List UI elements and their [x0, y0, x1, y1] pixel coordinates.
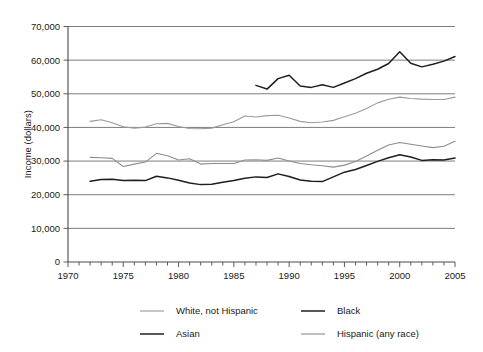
y-tick-label: 20,000	[31, 189, 60, 200]
legend-label-asian: Asian	[176, 328, 200, 339]
series-line-white-not-hispanic	[90, 97, 455, 129]
y-tick-label: 70,000	[31, 21, 60, 32]
y-tick-label: 10,000	[31, 223, 60, 234]
x-tick-label: 1980	[168, 270, 189, 281]
x-tick-label: 1990	[279, 270, 300, 281]
x-tick-label: 1995	[334, 270, 355, 281]
series-line-asian	[256, 52, 455, 89]
legend-label-black: Black	[337, 305, 360, 316]
x-tick-label: 1970	[57, 270, 78, 281]
y-axis-title: Income (dollars)	[22, 110, 33, 178]
legend-label-white-not-hispanic: White, not Hispanic	[176, 305, 258, 316]
y-axis-title-text: Income (dollars)	[22, 110, 33, 178]
income-by-race-line-chart: 010,00020,00030,00040,00050,00060,00070,…	[0, 0, 483, 352]
x-axis-tick-labels: 19701975198019851990199520002005	[57, 270, 465, 281]
x-tick-label: 1985	[223, 270, 244, 281]
y-tick-label: 60,000	[31, 55, 60, 66]
y-tick-label: 50,000	[31, 88, 60, 99]
x-tick-label: 2005	[444, 270, 465, 281]
y-tick-label: 30,000	[31, 155, 60, 166]
axes-group	[64, 27, 456, 268]
y-tick-label: 40,000	[31, 122, 60, 133]
x-tick-label: 2000	[389, 270, 410, 281]
y-tick-label: 0	[55, 256, 60, 267]
chart-legend: White, not HispanicBlackAsianHispanic (a…	[140, 305, 419, 339]
y-axis-tick-labels: 010,00020,00030,00040,00050,00060,00070,…	[31, 21, 60, 268]
legend-label-hispanic-any-race: Hispanic (any race)	[337, 328, 419, 339]
chart-container: 010,00020,00030,00040,00050,00060,00070,…	[0, 0, 483, 352]
x-tick-label: 1975	[113, 270, 134, 281]
data-series-group	[90, 52, 455, 185]
